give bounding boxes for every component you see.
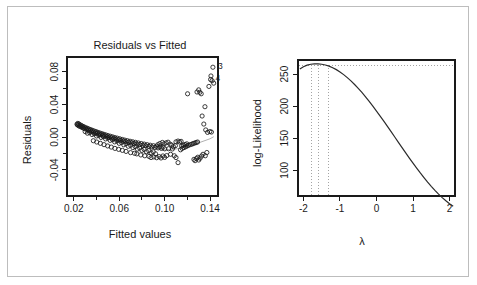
panel-boxcox-loglikelihood: log-Likelihood λ 100150200250-2-1012 [240, 0, 477, 285]
outlier-point-labels: 34 [216, 61, 223, 83]
data-point [203, 105, 207, 109]
x-tick-label: 0.10 [155, 203, 175, 214]
boxcox-loglikelihood-svg: log-Likelihood λ 100150200250-2-1012 [240, 0, 477, 285]
x-axis-title: λ [359, 235, 365, 247]
y-tick-label: 0.04 [49, 94, 60, 114]
right-axis-ticks [293, 74, 450, 201]
data-point [143, 154, 147, 158]
x-tick-label: -2 [299, 203, 308, 214]
page-title: Residuals vs Fitted [94, 39, 187, 51]
left-axis-ticks [62, 72, 210, 201]
panel-residuals-vs-fitted: Residuals vs Fitted Residuals Fitted val… [0, 0, 240, 285]
loglikelihood-curve [300, 64, 453, 206]
residuals-vs-fitted-svg: Residuals vs Fitted Residuals Fitted val… [0, 0, 240, 285]
y-tick-label: 250 [279, 65, 290, 82]
data-point [207, 84, 211, 88]
y-tick-label: 150 [279, 129, 290, 146]
y-tick-label: -0.04 [49, 158, 60, 181]
x-axis-title: Fitted values [109, 228, 172, 240]
data-point [211, 65, 215, 69]
x-tick-label: 1 [410, 203, 416, 214]
scatter-points [75, 65, 216, 165]
y-axis-title: Residuals [21, 115, 33, 164]
x-tick-label: 0 [374, 203, 380, 214]
data-point [202, 122, 206, 126]
data-point [128, 151, 132, 155]
y-tick-label: 200 [279, 97, 290, 114]
y-tick-label: 100 [279, 162, 290, 179]
data-point [176, 161, 180, 165]
x-tick-label: 0.14 [200, 203, 220, 214]
x-tick-label: -1 [336, 203, 345, 214]
outlier-label: 4 [216, 73, 221, 83]
confidence-interval-guides [299, 65, 454, 195]
plot-frame [67, 57, 218, 196]
left-axis-tick-labels: -0.040.000.040.080.020.060.100.14 [49, 62, 220, 214]
data-point [139, 153, 143, 157]
y-tick-label: 0.08 [49, 62, 60, 82]
data-point [185, 92, 189, 96]
y-axis-title: log-Likelihood [251, 99, 263, 167]
x-tick-label: 0.02 [64, 203, 84, 214]
x-tick-label: 0.06 [109, 203, 129, 214]
y-tick-label: 0.00 [49, 127, 60, 147]
outlier-label: 3 [218, 61, 223, 71]
right-axis-tick-labels: 100150200250-2-1012 [279, 65, 453, 214]
plot-frame [298, 60, 455, 196]
figure-canvas: Residuals vs Fitted Residuals Fitted val… [0, 0, 477, 285]
data-point [200, 114, 204, 118]
